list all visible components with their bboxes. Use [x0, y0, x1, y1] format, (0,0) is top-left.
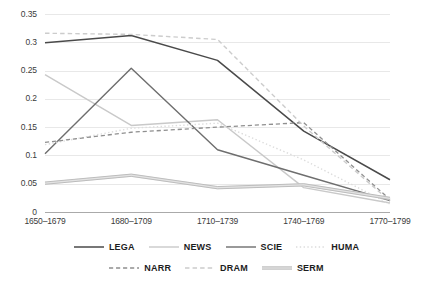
legend-swatch-lega-icon: [74, 242, 104, 252]
plot-area: [45, 14, 390, 212]
gridline: [45, 99, 390, 100]
legend-label: LEGA: [109, 242, 135, 252]
y-axis-tick-label: 0.05: [0, 179, 37, 188]
legend-item-dram[interactable]: DRAM: [185, 263, 248, 273]
legend-swatch-news-icon: [149, 242, 179, 252]
legend-item-scie[interactable]: SCIE: [226, 242, 283, 252]
gridline: [45, 14, 390, 15]
x-axis-tick-label: 1740–1769: [261, 214, 347, 228]
legend-swatch-scie-icon: [226, 242, 256, 252]
legend-label: NEWS: [184, 242, 212, 252]
x-axis-tick-label: 1710–1739: [175, 214, 261, 228]
y-axis-tick-label: 0.35: [0, 10, 37, 19]
legend-row-primary: LEGANEWSSCIEHUMA: [0, 236, 433, 257]
y-axis-tick-label: 0.15: [0, 123, 37, 132]
legend-item-lega[interactable]: LEGA: [74, 242, 135, 252]
gridline: [45, 71, 390, 72]
legend-label: SERM: [297, 263, 324, 273]
legend-row-secondary: NARRDRAMSERM: [0, 257, 433, 278]
gridline: [45, 184, 390, 185]
legend-label: SCIE: [261, 242, 283, 252]
legend-label: NARR: [144, 263, 171, 273]
legend-label: HUMA: [331, 242, 359, 252]
x-axis-tick-label: 1650–1679: [2, 214, 88, 228]
x-axis-tick-label: 1680–1709: [88, 214, 174, 228]
legend-item-huma[interactable]: HUMA: [296, 242, 359, 252]
legend-item-narr[interactable]: NARR: [109, 263, 171, 273]
y-axis-tick-label: 0.2: [0, 94, 37, 103]
y-axis-tick-label: 0.3: [0, 38, 37, 47]
gridline: [45, 127, 390, 128]
x-axis-tick-label: 1770–1799: [347, 214, 433, 228]
chart-legend: LEGANEWSSCIEHUMA NARRDRAMSERM: [0, 236, 433, 281]
legend-swatch-dram-icon: [185, 263, 215, 273]
gridline: [45, 42, 390, 43]
legend-item-news[interactable]: NEWS: [149, 242, 212, 252]
legend-swatch-huma-icon: [296, 242, 326, 252]
gridline: [45, 155, 390, 156]
y-axis-tick-label: 0.1: [0, 151, 37, 160]
legend-swatch-narr-icon: [109, 263, 139, 273]
legend-item-serm[interactable]: SERM: [262, 263, 324, 273]
x-axis-line: [45, 212, 390, 213]
y-axis-tick-label: 0.25: [0, 66, 37, 75]
legend-label: DRAM: [220, 263, 248, 273]
legend-swatch-serm-icon: [262, 263, 292, 273]
x-axis-tick-labels: 1650–16791680–17091710–17391740–17691770…: [45, 214, 390, 230]
line-chart: 00.050.10.150.20.250.30.35 1650–16791680…: [0, 0, 433, 281]
